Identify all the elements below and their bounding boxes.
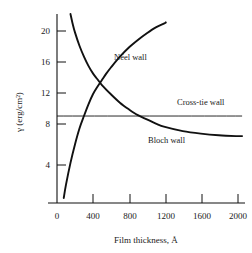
annotation-neel-wall: Néel wall: [114, 52, 147, 62]
x-tick-marks: [93, 194, 238, 203]
x-tick-label-1600: 1600: [193, 211, 212, 221]
curve-bloch-wall: [70, 14, 242, 136]
x-tick-label-0: 0: [55, 211, 60, 221]
curve-neel-wall: [64, 22, 166, 198]
annotation-bloch-wall: Bloch wall: [148, 135, 186, 145]
y-tick-label-20: 20: [41, 26, 51, 36]
y-tick-marks: [57, 31, 66, 165]
y-axis-title: γ (erg/cm²): [14, 92, 24, 133]
annotation-cross-tie-wall: Cross-tie wall: [177, 97, 225, 107]
x-tick-label-1200: 1200: [157, 211, 176, 221]
y-tick-label-16: 16: [41, 57, 51, 67]
x-axis-title: Film thickness, Å: [114, 235, 178, 245]
y-tick-label-12: 12: [41, 88, 50, 98]
x-tick-label-2000: 2000: [229, 211, 248, 221]
chart-figure: 20 16 12 8 4 0 400 800 1200 1600 2000 Fi…: [0, 0, 252, 253]
y-tick-label-4: 4: [46, 160, 51, 170]
chart-svg: 20 16 12 8 4 0 400 800 1200 1600 2000 Fi…: [0, 0, 252, 253]
y-tick-label-8: 8: [46, 119, 51, 129]
x-tick-labels: 0 400 800 1200 1600 2000: [55, 211, 248, 221]
x-tick-label-400: 400: [86, 211, 100, 221]
y-tick-labels: 20 16 12 8 4: [41, 26, 51, 170]
x-tick-label-800: 800: [123, 211, 137, 221]
curve-annotations: Néel wall Cross-tie wall Bloch wall: [114, 52, 225, 145]
